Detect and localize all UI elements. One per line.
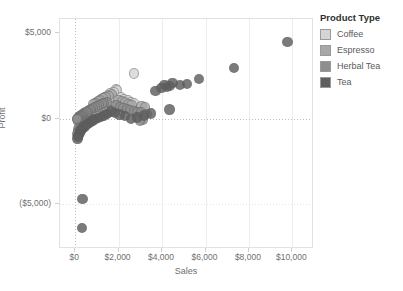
y-tick-label: $0 <box>0 113 51 123</box>
data-point <box>229 63 239 73</box>
data-point <box>164 104 174 114</box>
x-tick-label: $6,000 <box>192 252 218 262</box>
plot-area <box>59 18 313 248</box>
legend-items: CoffeeEspressoHerbal TeaTea <box>320 28 403 88</box>
x-tick-mark <box>118 248 119 252</box>
data-point <box>77 223 87 233</box>
legend-item-label: Tea <box>337 77 352 87</box>
plot-inner <box>60 19 312 247</box>
legend-item-herbal-tea[interactable]: Herbal Tea <box>320 60 403 72</box>
x-tick-mark <box>74 248 75 252</box>
legend-item-coffee[interactable]: Coffee <box>320 28 403 40</box>
legend-item-label: Coffee <box>337 29 363 39</box>
gridline-vertical <box>119 19 120 247</box>
scatter-chart: Profit Sales $5,000$0($5,000) $0$2,000$4… <box>0 0 403 291</box>
legend-swatch-icon <box>320 77 331 88</box>
x-tick-mark <box>161 248 162 252</box>
x-tick-label: $0 <box>69 252 78 262</box>
x-tick-label: $4,000 <box>148 252 174 262</box>
y-tick-label: $5,000 <box>0 27 51 37</box>
legend-title: Product Type <box>320 12 403 23</box>
gridline-vertical <box>249 19 250 247</box>
data-point <box>77 194 87 204</box>
legend-item-label: Espresso <box>337 45 375 55</box>
legend-swatch-icon <box>320 61 331 72</box>
legend-item-espresso[interactable]: Espresso <box>320 44 403 56</box>
legend-swatch-icon <box>320 29 331 40</box>
x-tick-mark <box>248 248 249 252</box>
data-point <box>150 86 160 96</box>
legend: Product Type CoffeeEspressoHerbal TeaTea <box>320 12 403 92</box>
data-point <box>282 37 292 47</box>
gridline-vertical <box>206 19 207 247</box>
x-tick-mark <box>205 248 206 252</box>
gridline-vertical <box>162 19 163 247</box>
data-point <box>72 133 82 143</box>
x-axis-title: Sales <box>59 266 313 276</box>
x-tick-label: $8,000 <box>235 252 261 262</box>
gridline-horizontal <box>60 204 312 205</box>
data-point <box>129 68 139 78</box>
legend-item-tea[interactable]: Tea <box>320 76 403 88</box>
legend-swatch-icon <box>320 45 331 56</box>
gridline-vertical <box>292 19 293 247</box>
x-tick-label: $10,000 <box>276 252 307 262</box>
legend-item-label: Herbal Tea <box>337 61 380 71</box>
x-tick-label: $2,000 <box>105 252 131 262</box>
x-tick-mark <box>291 248 292 252</box>
y-tick-label: ($5,000) <box>0 198 51 208</box>
data-point <box>194 74 204 84</box>
